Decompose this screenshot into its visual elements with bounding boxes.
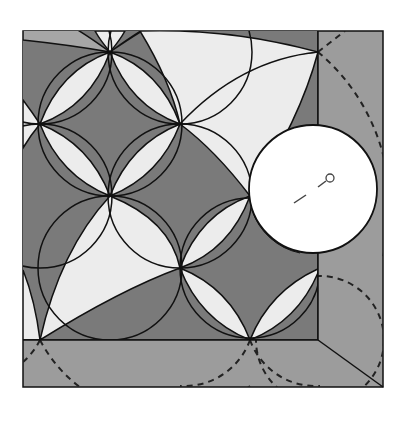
quilt-diagram (0, 0, 410, 440)
circle-template (249, 125, 377, 253)
